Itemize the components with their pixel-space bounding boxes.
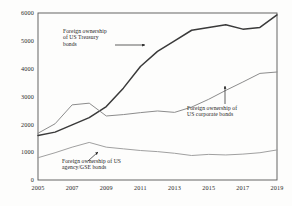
annotation-label: Foreign ownership of: [187, 105, 237, 111]
x-tick-label: 2009: [100, 184, 113, 191]
y-tick-label: 3000: [21, 93, 34, 100]
chart-annotations: Foreign ownershipof US TreasurybondsFore…: [62, 28, 237, 170]
y-tick-label: 0: [31, 176, 34, 183]
annotation-label: of US Treasury: [63, 34, 99, 40]
y-tick-label: 2000: [21, 121, 34, 128]
chart-figure: 0100020003000400050006000 20052007200920…: [0, 0, 292, 206]
corporate-annotation: Foreign ownership ofUS corporate bonds: [187, 86, 237, 117]
x-axis-tick-labels: 20052007200920112013201520172019: [32, 184, 284, 191]
annotation-label: bonds: [63, 41, 77, 47]
y-tick-label: 6000: [21, 9, 34, 16]
annotation-label: Foreign ownership of US: [62, 158, 121, 164]
x-tick-label: 2005: [32, 184, 45, 191]
line-chart: 0100020003000400050006000 20052007200920…: [0, 0, 292, 206]
y-tick-label: 5000: [21, 37, 34, 44]
agency-annotation: Foreign ownership of USagency/GSE bonds: [62, 152, 121, 170]
x-tick-label: 2013: [168, 184, 181, 191]
treasury-annotation: Foreign ownershipof US Treasurybonds: [63, 28, 145, 47]
annotation-label: agency/GSE bonds: [62, 164, 106, 170]
x-tick-label: 2011: [134, 184, 147, 191]
annotation-label: US corporate bonds: [187, 111, 233, 117]
x-tick-label: 2007: [66, 184, 79, 191]
series-line: [38, 142, 277, 157]
y-tick-label: 1000: [21, 148, 34, 155]
x-tick-label: 2015: [202, 184, 215, 191]
y-tick-label: 4000: [21, 65, 34, 72]
x-tick-label: 2019: [271, 184, 284, 191]
y-axis-tick-labels: 0100020003000400050006000: [21, 9, 34, 183]
annotation-label: Foreign ownership: [63, 28, 107, 34]
x-tick-label: 2017: [236, 184, 249, 191]
